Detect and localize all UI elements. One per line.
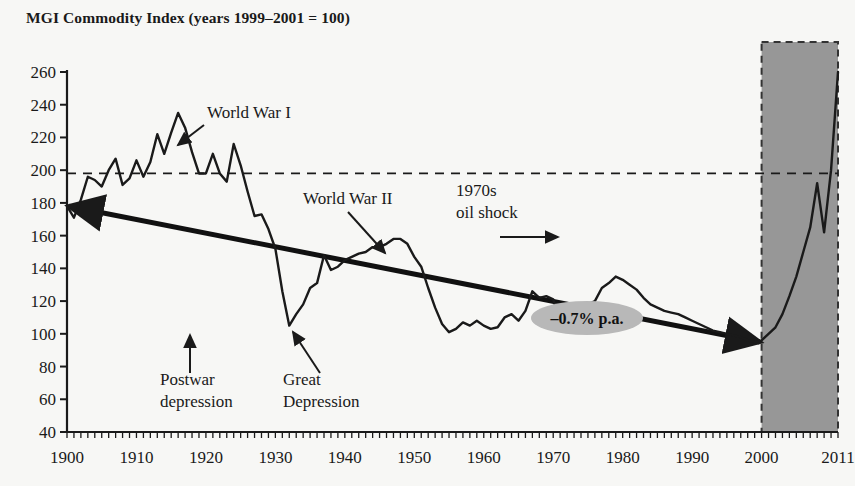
x-axis-tick-label: 1970 <box>536 448 570 467</box>
y-axis-tick-labels: 406080100120140160180200220240260 <box>31 63 57 442</box>
annotation-arrow-great-depression <box>293 332 320 373</box>
x-axis-tick-label: 1980 <box>606 448 640 467</box>
x-axis-tick-label: 2000 <box>745 448 779 467</box>
x-axis-tick-label: 1950 <box>397 448 431 467</box>
annotation-label-postwar: depression <box>160 392 233 411</box>
chart-canvas: 406080100120140160180200220240260 190019… <box>0 0 855 486</box>
x-axis-tick-label: 2011 <box>821 448 854 467</box>
y-axis-tick-label: 120 <box>31 292 57 311</box>
chart-annotations: World War IWorld War II1970soil shockPos… <box>160 103 558 411</box>
x-axis-tick-label: 1930 <box>258 448 292 467</box>
annotation-label-ww1: World War I <box>207 103 291 122</box>
x-axis-tick-label: 1910 <box>119 448 153 467</box>
series-path <box>67 72 838 342</box>
trend-line-segment <box>69 206 760 342</box>
shaded-region-rect <box>762 42 838 432</box>
y-axis-tick-label: 180 <box>31 194 57 213</box>
y-axis-tick-label: 40 <box>39 423 56 442</box>
commodity-index-line-chart: 406080100120140160180200220240260 190019… <box>0 0 855 486</box>
x-axis-tick-label: 1990 <box>675 448 709 467</box>
x-axis-tick-label: 1900 <box>50 448 84 467</box>
data-series-line <box>67 72 838 342</box>
y-axis-tick-label: 260 <box>31 63 57 82</box>
x-axis-tick-label: 1960 <box>467 448 501 467</box>
annotation-label-oil-shock: 1970s <box>456 181 497 200</box>
annotation-label-ww2: World War II <box>303 189 393 208</box>
annotation-arrow-ww2 <box>348 212 385 253</box>
trend-label-text: –0.7% p.a. <box>550 310 624 328</box>
trend-line <box>69 206 760 342</box>
y-axis-tick-label: 220 <box>31 128 57 147</box>
y-axis-tick-label: 60 <box>39 390 56 409</box>
annotation-label-great-depression: Great <box>283 370 321 389</box>
annotation-label-oil-shock: oil shock <box>456 203 518 222</box>
y-axis-tick-label: 160 <box>31 227 57 246</box>
x-axis-tick-label: 1940 <box>328 448 362 467</box>
y-axis-tick-label: 200 <box>31 161 57 180</box>
x-axis-tick-labels: 1900191019201930194019501960197019801990… <box>50 448 855 467</box>
y-axis-tick-label: 100 <box>31 325 57 344</box>
y-axis-tick-label: 240 <box>31 96 57 115</box>
annotation-label-postwar: Postwar <box>160 370 215 389</box>
trend-line-label: –0.7% p.a. <box>531 301 643 335</box>
y-axis-tick-label: 140 <box>31 259 57 278</box>
annotation-arrow-ww1 <box>178 125 204 145</box>
annotation-label-great-depression: Depression <box>283 392 360 411</box>
shaded-region <box>762 42 838 432</box>
x-axis-tick-label: 1920 <box>189 448 223 467</box>
y-axis-tick-label: 80 <box>39 358 56 377</box>
